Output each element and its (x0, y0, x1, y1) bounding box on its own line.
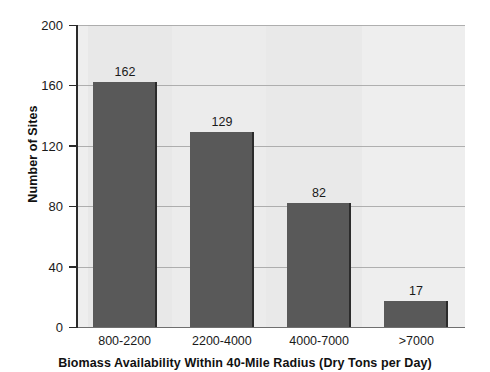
y-tick-40 (69, 266, 76, 268)
x-category-label: >7000 (356, 335, 476, 348)
bar (93, 82, 157, 327)
y-tick-160 (69, 85, 76, 87)
x-axis-line (76, 327, 465, 328)
x-axis-title: Biomass Availability Within 40-Mile Radi… (0, 356, 490, 370)
bar (384, 301, 448, 327)
y-axis-title-wrap: Number of Sites (0, 25, 66, 328)
bar-value-label: 129 (172, 116, 272, 129)
gridline-200 (76, 25, 465, 26)
y-tick-0 (69, 327, 76, 329)
bar-value-label: 82 (269, 187, 369, 200)
bar-chart: 04080120160200 Number of Sites 162129821… (0, 0, 490, 372)
y-axis-title: Number of Sites (26, 44, 40, 264)
y-tick-80 (69, 206, 76, 208)
y-tick-120 (69, 145, 76, 147)
bar (190, 132, 254, 327)
bar-value-label: 162 (75, 66, 175, 79)
bar (287, 203, 351, 327)
y-tick-200 (69, 25, 76, 27)
bar-value-label: 17 (366, 285, 466, 298)
